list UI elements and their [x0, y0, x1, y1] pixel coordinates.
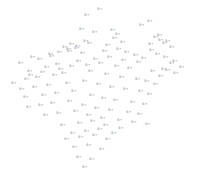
- scatter-point-label: B+: [52, 74, 57, 77]
- scatter-point-label: B+: [61, 72, 66, 75]
- scatter-point-label: B+: [43, 114, 48, 117]
- scatter-point-label: B+: [103, 124, 108, 127]
- scatter-point-label: B+: [126, 111, 131, 114]
- scatter-point-label: B+: [69, 65, 74, 68]
- scatter-point-label: B+: [81, 104, 86, 107]
- scatter-point-label: B+: [139, 24, 144, 27]
- scatter-point-label: B+: [89, 94, 94, 97]
- scatter-point-label: B+: [117, 119, 122, 122]
- scatter-point-label: B+: [131, 121, 136, 124]
- scatter-point-label: B+: [96, 83, 101, 86]
- scatter-point-label: B+: [138, 90, 143, 93]
- scatter-point-label: B+: [99, 148, 104, 151]
- scatter-point-label: B+: [82, 80, 87, 83]
- scatter-point-label: B+: [44, 66, 49, 69]
- scatter-point-label: B+: [105, 44, 110, 47]
- scatter-point-label: B+: [67, 100, 72, 103]
- scatter-point-label: B+: [141, 57, 146, 60]
- scatter-point-label: B+: [55, 63, 60, 66]
- scatter-point-label: B+: [108, 109, 113, 112]
- scatter-point-label: B+: [179, 66, 184, 69]
- scatter-point-label: B+: [120, 41, 125, 44]
- scatter-point-label: B+: [105, 138, 110, 141]
- scatter-point-label: B+: [136, 61, 141, 64]
- scatter-point-label: B+: [11, 82, 16, 85]
- scatter-point-label: B+: [130, 101, 135, 104]
- scatter-point-label: B+: [86, 144, 91, 147]
- scatter-point-label: B+: [114, 65, 119, 68]
- scatter-point-label: B+: [18, 62, 23, 65]
- scatter-point-label: B+: [145, 123, 150, 126]
- scatter-point-label: B+: [76, 60, 81, 63]
- scatter-point-label: B+: [79, 28, 84, 31]
- scatter-point-label: B+: [64, 138, 69, 141]
- scatter-point-label: B+: [158, 75, 163, 78]
- scatter-point-label: B+: [50, 102, 55, 105]
- scatter-point-label: B+: [109, 86, 114, 89]
- scatter-point-label: B+: [112, 37, 117, 40]
- scatter-point-label: B+: [88, 70, 93, 73]
- scatter-point-label: B+: [86, 114, 91, 117]
- scatter-point-label: B+: [65, 82, 70, 85]
- scatter-point-label: B+: [73, 110, 78, 113]
- scatter-point-label: B+: [155, 53, 160, 56]
- scatter-point-label: B+: [148, 43, 153, 46]
- scatter-point-label: B+: [124, 51, 129, 54]
- scatter-point-label: B+: [107, 56, 112, 59]
- scatter-point-label: B+: [60, 124, 65, 127]
- scatter-point-label: B+: [32, 86, 37, 89]
- scatter-point-label: B+: [84, 130, 89, 133]
- scatter-point-label: B+: [101, 97, 106, 100]
- scatter-point-label: B+: [119, 76, 124, 79]
- scatter-point-label: B+: [54, 92, 59, 95]
- scatter-point-label: B+: [92, 31, 97, 34]
- scatter-point-label: B+: [57, 51, 62, 54]
- scatter-point-label: B+: [76, 156, 81, 159]
- scatter-point-label: B+: [157, 34, 162, 37]
- scatter-point-label: B+: [127, 67, 132, 70]
- scatter-point-label: B+: [173, 72, 178, 75]
- scatter-point-label: B+: [169, 46, 174, 49]
- scatter-point-label: B+: [89, 158, 94, 161]
- scatter-point-label: B+: [75, 45, 80, 48]
- scatter-point-label: B+: [113, 99, 118, 102]
- scatter-point-label: B+: [41, 94, 46, 97]
- scatter-point-label: B+: [97, 8, 102, 11]
- scatter-point-label: B+: [30, 56, 35, 59]
- scatter-point-label: B+: [26, 106, 31, 109]
- scatter-point-label: B+: [56, 112, 61, 115]
- scatter-point-label: B+: [116, 48, 121, 51]
- scatter-point-label: B+: [144, 80, 149, 83]
- scatter-point-label: B+: [84, 14, 89, 17]
- scatter-point-label: B+: [123, 88, 128, 91]
- scatter-point-label: B+: [142, 103, 147, 106]
- scatter-point-label: B+: [135, 78, 140, 81]
- scatter-point-label: B+: [94, 107, 99, 110]
- scatter-point-label: B+: [121, 59, 126, 62]
- scatter-point-label: B+: [147, 20, 152, 23]
- scatter-point-label: B+: [46, 84, 51, 87]
- scatter-point-label: B+: [78, 136, 83, 139]
- scatter-point-label: B+: [66, 48, 71, 51]
- scatter-point-label: B+: [19, 88, 24, 91]
- scatter-point-label: B+: [35, 76, 40, 79]
- scatter-point-label: B+: [70, 132, 75, 135]
- scatter-plot-figure: B+B+B+B+B+B+B+B+B+B+B+B+B+B+B+B+B+B+B+B+…: [0, 0, 197, 176]
- scatter-point-label: B+: [97, 128, 102, 131]
- plot-area: B+B+B+B+B+B+B+B+B+B+B+B+B+B+B+B+B+B+B+B+…: [0, 0, 197, 176]
- scatter-point-label: B+: [100, 117, 105, 120]
- scatter-point-label: B+: [162, 42, 167, 45]
- scatter-point-label: B+: [137, 113, 142, 116]
- scatter-point-label: B+: [149, 49, 154, 52]
- scatter-point-label: B+: [153, 83, 158, 86]
- scatter-point-label: B+: [165, 69, 170, 72]
- scatter-point-label: B+: [92, 134, 97, 137]
- scatter-point-label: B+: [90, 120, 95, 123]
- scatter-point-label: B+: [77, 122, 82, 125]
- scatter-point-label: B+: [133, 54, 138, 57]
- scatter-point-label: B+: [72, 146, 77, 149]
- scatter-point-label: B+: [111, 132, 116, 135]
- scatter-point-label: B+: [37, 58, 42, 61]
- scatter-point-label: B+: [150, 70, 155, 73]
- scatter-point-label: B+: [82, 166, 87, 169]
